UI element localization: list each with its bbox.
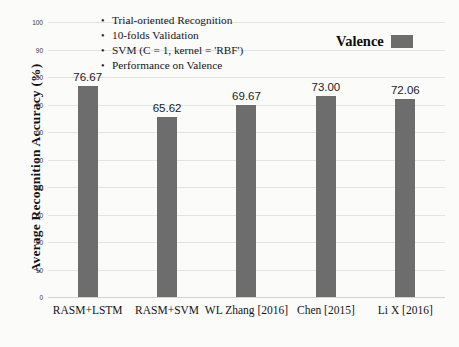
annotation-text: Trial-oriented Recognition — [112, 13, 232, 28]
legend-swatch-icon — [391, 35, 413, 48]
annotation-item: •10-folds Validation — [101, 28, 316, 43]
bar[interactable] — [78, 86, 98, 297]
y-axis-tick-label: 40 — [36, 184, 43, 191]
y-axis-tick-label: 70 — [36, 101, 43, 108]
y-axis-tick-label: 50 — [36, 156, 43, 163]
x-axis-category-label: WL Zhang [2016] — [205, 304, 288, 316]
bar-chart: Average Recognition Accuracy (%) 0102030… — [0, 0, 459, 347]
annotation-text: SVM (C = 1, kernel = 'RBF') — [112, 43, 243, 58]
annotation-item: •SVM (C = 1, kernel = 'RBF') — [101, 43, 316, 58]
bar[interactable] — [236, 105, 256, 297]
x-axis-category-label: Chen [2015] — [297, 304, 355, 316]
bar-value-label: 72.06 — [391, 84, 420, 96]
bar-value-label: 69.67 — [232, 90, 261, 102]
annotation-text: 10-folds Validation — [112, 28, 199, 43]
annotation-text: Performance on Valence — [112, 58, 222, 73]
y-axis-tick-label: 80 — [36, 74, 43, 81]
y-axis-tick-label: 60 — [36, 129, 43, 136]
bar-value-label: 76.67 — [73, 71, 102, 83]
bullet-icon: • — [101, 13, 112, 28]
bar[interactable] — [395, 99, 415, 297]
annotation-item: •Performance on Valence — [101, 58, 316, 73]
bullet-icon: • — [101, 58, 112, 73]
bullet-icon: • — [101, 43, 112, 58]
y-axis-tick-label: 30 — [36, 211, 43, 218]
legend-label: Valence — [336, 33, 384, 50]
bar-slot: 72.06Li X [2016] — [366, 22, 445, 297]
x-axis-category-label: RASM+LSTM — [53, 304, 123, 316]
y-axis-tick-label: 0 — [39, 294, 43, 301]
bar-value-label: 73.00 — [311, 81, 340, 93]
y-axis-tick-label: 90 — [36, 46, 43, 53]
bullet-icon: • — [101, 28, 112, 43]
bar-value-label: 65.62 — [153, 102, 182, 114]
x-axis-category-label: RASM+SVM — [135, 304, 199, 316]
y-axis-tick-label: 100 — [32, 19, 43, 26]
bar[interactable] — [157, 117, 177, 297]
legend: Valence — [336, 33, 413, 50]
y-axis-tick-label: 10 — [36, 266, 43, 273]
gridline — [48, 297, 445, 298]
annotation-list: •Trial-oriented Recognition•10-folds Val… — [101, 13, 316, 73]
annotation-item: •Trial-oriented Recognition — [101, 13, 316, 28]
bar[interactable] — [316, 96, 336, 297]
x-axis-category-label: Li X [2016] — [378, 304, 433, 316]
y-axis-tick-label: 20 — [36, 239, 43, 246]
